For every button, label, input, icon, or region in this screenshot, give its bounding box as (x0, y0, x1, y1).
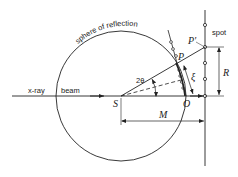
point-P-label: P (177, 51, 184, 62)
p-prime-leader (196, 42, 203, 46)
sphere-label: sphere of reflection (73, 19, 138, 46)
two-theta-label: 2θ (136, 76, 144, 85)
xray-label: x-ray (28, 86, 45, 95)
R-label: R (222, 67, 229, 78)
xi-label: ξ (191, 71, 196, 83)
point-O-label: O (183, 98, 190, 109)
point-P-prime-label: P' (187, 35, 197, 46)
dashed-ray (121, 80, 181, 96)
ewald-sphere-diagram: sphere of reflection x-ray beam spot S O… (0, 0, 238, 177)
M-label: M (158, 109, 168, 120)
spot-label: spot (212, 28, 227, 37)
point-S-label: S (113, 98, 118, 109)
beam-label: beam (61, 86, 80, 95)
